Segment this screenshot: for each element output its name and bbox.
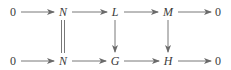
commutative-diagram: 0 N L M 0 0 N G H 0 bbox=[0, 0, 231, 70]
node-bottom-zero-right: 0 bbox=[215, 55, 221, 67]
node-top-L: L bbox=[112, 6, 119, 18]
node-top-zero-left: 0 bbox=[10, 6, 16, 18]
node-top-N: N bbox=[59, 6, 67, 18]
node-bottom-H: H bbox=[164, 55, 173, 67]
node-bottom-zero-left: 0 bbox=[10, 55, 16, 67]
node-top-zero-right: 0 bbox=[215, 6, 221, 18]
node-top-M: M bbox=[163, 6, 173, 18]
node-bottom-G: G bbox=[111, 55, 120, 67]
node-bottom-N: N bbox=[59, 55, 67, 67]
